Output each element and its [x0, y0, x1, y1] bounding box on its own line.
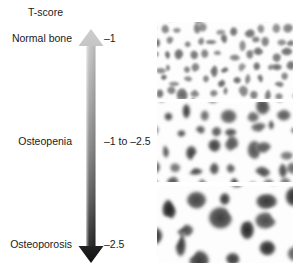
axis-title: T-score [0, 7, 302, 18]
t-score-value-osteoporosis: –2.5 [104, 239, 124, 250]
bone-image-osteopenia [157, 102, 293, 182]
category-label-osteopenia: Osteopenia [18, 136, 72, 147]
bone-image-osteoporosis [157, 186, 293, 263]
t-score-value-normal-bone: –1 [104, 33, 116, 44]
t-score-value-osteopenia: –1 to –2.5 [104, 136, 151, 147]
category-label-osteoporosis: Osteoporosis [10, 239, 72, 250]
bone-image-normal-bone [157, 22, 293, 99]
t-score-bone-density-figure: T-score [0, 0, 302, 270]
category-label-normal-bone: Normal bone [12, 33, 72, 44]
t-score-gradient-arrow [76, 27, 106, 265]
